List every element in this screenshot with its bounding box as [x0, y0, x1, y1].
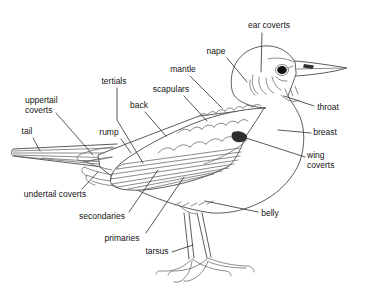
bird-eye	[277, 66, 287, 74]
label-secondaries: secondaries	[79, 212, 125, 222]
label-back: back	[130, 101, 148, 111]
leader-line-tail	[33, 138, 40, 151]
label-tarsus: tarsus	[145, 247, 168, 257]
label-throat: throat	[317, 103, 339, 113]
bird-legs-feet	[156, 205, 254, 282]
bird-bill	[295, 61, 347, 76]
label-belly: belly	[261, 209, 278, 219]
label-ear-coverts: ear coverts	[248, 21, 290, 31]
label-rump: rump	[99, 128, 118, 138]
label-scapulars: scapulars	[153, 85, 189, 95]
leader-line-uppertail-coverts	[56, 113, 93, 155]
label-wing-coverts: wing coverts	[307, 151, 334, 171]
label-uppertail-coverts: uppertail coverts	[25, 96, 58, 116]
label-nape: nape	[207, 47, 226, 57]
label-tertials: tertials	[101, 77, 126, 87]
bird-topography-diagram: ear covertsnapemantlescapularstertialsba…	[0, 0, 366, 307]
leader-line-tarsus	[172, 245, 193, 252]
label-tail: tail	[22, 127, 33, 137]
label-mantle: mantle	[170, 65, 196, 75]
label-undertail-coverts: undertail coverts	[24, 190, 86, 200]
label-breast: breast	[313, 128, 337, 138]
label-primaries: primaries	[105, 234, 140, 244]
leader-line-mantle	[190, 76, 222, 108]
